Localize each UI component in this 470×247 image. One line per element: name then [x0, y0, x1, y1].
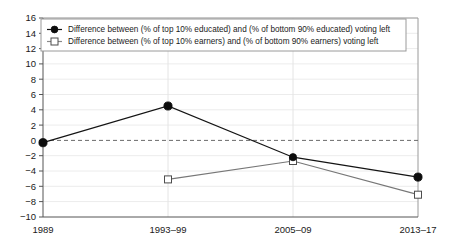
y-tick-label: −10	[20, 211, 36, 222]
y-tick-label: 6	[31, 89, 36, 100]
data-point-earners	[165, 176, 172, 183]
legend-item-educated[interactable]: Difference between (% of top 10% educate…	[47, 25, 391, 34]
filled-circle-icon	[51, 26, 58, 33]
y-tick-label: 12	[25, 43, 36, 54]
data-point-educated	[39, 139, 47, 147]
data-point-earners	[415, 191, 422, 198]
y-tick-label: 16	[25, 12, 36, 23]
x-tick-label: 2013–17	[400, 224, 437, 235]
data-point-educated	[164, 102, 172, 110]
y-axis-tick-labels: 16 14 12 10 8 6 4 2 0 −2 −4 −6 −8 −10	[20, 12, 36, 222]
y-tick-label: −4	[25, 165, 36, 176]
y-tick-label: 8	[31, 74, 36, 85]
open-square-icon	[51, 38, 58, 45]
y-tick-label: −6	[25, 181, 36, 192]
x-axis-tick-labels: 1989 1993–99 2005–09 2013–17	[32, 224, 436, 235]
legend-box	[41, 19, 406, 51]
y-tick-label: −2	[25, 150, 36, 161]
line-chart: 16 14 12 10 8 6 4 2 0 −2 −4 −6 −8 −10	[0, 0, 470, 247]
x-tick-label: 1993–99	[150, 224, 187, 235]
legend-label-educated: Difference between (% of top 10% educate…	[68, 25, 391, 34]
y-tick-label: 4	[31, 104, 36, 115]
legend-item-earners[interactable]: Difference between (% of top 10% earners…	[47, 37, 379, 46]
y-tick-label: 2	[31, 120, 36, 131]
legend-label-earners: Difference between (% of top 10% earners…	[68, 37, 379, 46]
x-tick-label: 2005–09	[275, 224, 312, 235]
chart-legend: Difference between (% of top 10% educate…	[41, 19, 406, 51]
y-tick-label: −8	[25, 196, 36, 207]
data-point-educated	[414, 173, 422, 181]
data-point-educated	[289, 154, 296, 161]
y-tick-label: 14	[25, 28, 36, 39]
y-tick-label: 10	[25, 58, 36, 69]
chart-container: 16 14 12 10 8 6 4 2 0 −2 −4 −6 −8 −10	[0, 0, 470, 247]
x-tick-label: 1989	[32, 224, 53, 235]
y-tick-label: 0	[31, 135, 36, 146]
